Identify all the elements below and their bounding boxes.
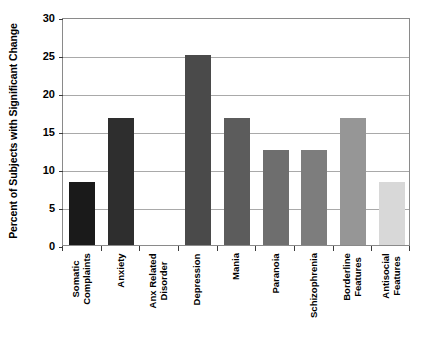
x-axis-category-label: Anx RelatedDisorder [139,251,178,342]
y-axis-tick-labels: 051015202530 [28,18,58,246]
x-axis-category-label: Schizophrenia [294,251,333,342]
bar-slot [334,19,373,245]
x-axis-category-label: Paranoia [255,251,294,342]
x-axis-category-label: Mania [217,251,256,342]
y-axis-tick-label: 10 [43,164,55,176]
bar-slot [295,19,334,245]
bar[interactable] [224,118,250,245]
y-axis-tick-label: 30 [43,12,55,24]
bar[interactable] [69,182,95,245]
y-axis-tick-label: 5 [49,202,55,214]
bar[interactable] [263,150,289,245]
x-axis-category-label: AntisocialFeatures [371,251,410,342]
bar[interactable] [301,150,327,245]
x-axis-category-label-text: Anx RelatedDisorder [148,253,170,308]
bar-slot [372,19,411,245]
x-axis-category-label-text: Anxiety [115,253,126,287]
x-axis-category-labels: SomaticComplaintsAnxietyAnx RelatedDisor… [62,251,410,342]
y-axis-title: Percent of Subjects with Significant Cha… [0,0,26,262]
plot-area [62,18,410,246]
x-axis-category-label-text: BorderlineFeatures [341,253,363,301]
y-axis-tick-label: 0 [49,240,55,252]
y-axis-tick-label: 25 [43,50,55,62]
x-axis-category-label-text: Schizophrenia [308,253,319,318]
bar-slot [140,19,179,245]
x-axis-category-label-text: SomaticComplaints [70,253,92,305]
x-axis-category-label: SomaticComplaints [62,251,101,342]
x-axis-category-label-text: Paranoia [269,253,280,293]
x-axis-category-label-text: Depression [192,253,203,305]
bar-chart: Percent of Subjects with Significant Cha… [0,0,424,342]
x-axis-category-label: BorderlineFeatures [333,251,372,342]
x-axis-category-label: Anxiety [101,251,140,342]
bar[interactable] [108,118,134,245]
y-axis-title-text: Percent of Subjects with Significant Cha… [7,23,19,239]
x-axis-category-label: Depression [178,251,217,342]
bar-slot [256,19,295,245]
y-axis-tick-label: 15 [43,126,55,138]
bar[interactable] [340,118,366,245]
bar[interactable] [185,55,211,245]
bars-layer [63,19,409,245]
bar-slot [179,19,218,245]
bar-slot [102,19,141,245]
bar-slot [218,19,257,245]
bar-slot [63,19,102,245]
x-axis-category-label-text: AntisocialFeatures [380,253,402,298]
y-axis-tick-label: 20 [43,88,55,100]
x-axis-category-label-text: Mania [230,253,241,280]
bar[interactable] [379,182,405,245]
